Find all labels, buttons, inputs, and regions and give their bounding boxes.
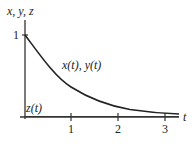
- xy-curve: [25, 35, 179, 114]
- x-tick-label-2: 2: [115, 122, 121, 136]
- x-tick-label-1: 1: [68, 122, 74, 136]
- chart: x, y, z 1 t 1 2 3 x(t), y(t) z(t): [0, 0, 192, 145]
- x-tick-label-3: 3: [162, 122, 168, 136]
- curve-label-xy: x(t), y(t): [61, 58, 101, 72]
- y-axis-label: x, y, z: [6, 4, 34, 18]
- curve-label-z: z(t): [25, 101, 42, 115]
- x-axis-label: t: [183, 110, 187, 124]
- y-tick-label-1: 1: [13, 28, 19, 42]
